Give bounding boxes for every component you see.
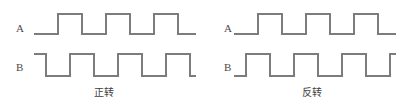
caption-forward-rotation: 正转 [0, 86, 208, 99]
waveform-a-forward [34, 14, 196, 34]
panel-forward-rotation: A B 正转 [0, 0, 208, 109]
waveform-b-forward [34, 54, 196, 76]
waveform-a-reverse [234, 14, 396, 34]
caption-reverse-rotation: 反转 [208, 86, 416, 99]
encoder-waveform-diagram: A B 正转 A B 反转 [0, 0, 416, 109]
panel-reverse-rotation: A B 反转 [208, 0, 416, 109]
waveform-b-reverse [234, 54, 396, 76]
